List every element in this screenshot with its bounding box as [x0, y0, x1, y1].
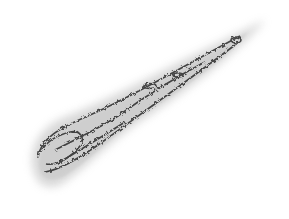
image-canvas	[0, 0, 289, 219]
comet-sketch	[0, 0, 289, 219]
comet-body	[39, 32, 248, 179]
